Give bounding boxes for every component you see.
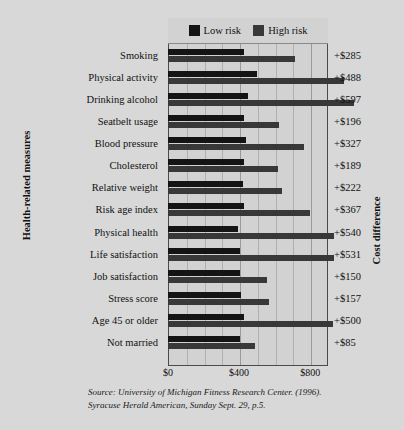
bar-high-risk: [168, 277, 267, 283]
category-label: Age 45 or older: [0, 310, 163, 332]
category-label: Smoking: [0, 44, 163, 66]
bar-low-risk: [168, 292, 241, 298]
category-label: Seatbelt usage: [0, 110, 163, 132]
category-label: Relative weight: [0, 177, 163, 199]
bar-low-risk: [168, 181, 243, 187]
category-label: Physical health: [0, 221, 163, 243]
cost-difference-value: +$189: [334, 155, 390, 177]
bar-high-risk: [168, 144, 304, 150]
category-label: Life satisfaction: [0, 243, 163, 265]
category-label: Blood pressure: [0, 133, 163, 155]
bar-group: [168, 310, 328, 332]
bar-high-risk: [168, 233, 334, 239]
cost-difference-value: +$85: [334, 332, 390, 354]
chart-figure: Low riskHigh risk SmokingPhysical activi…: [0, 0, 404, 430]
bar-high-risk: [168, 78, 344, 84]
bar-high-risk: [168, 166, 278, 172]
category-label: Stress score: [0, 287, 163, 309]
bar-group: [168, 88, 328, 110]
bar-group: [168, 265, 328, 287]
category-labels: SmokingPhysical activityDrinking alcohol…: [0, 44, 163, 354]
bar-low-risk: [168, 270, 240, 276]
x-tick-label: $800: [300, 367, 320, 378]
bar-group: [168, 44, 328, 66]
category-label: Not married: [0, 332, 163, 354]
cost-difference-value: +$540: [334, 221, 390, 243]
cost-difference-value: +$157: [334, 287, 390, 309]
bar-low-risk: [168, 226, 238, 232]
cost-difference-value: +$150: [334, 265, 390, 287]
bar-high-risk: [168, 122, 279, 128]
bar-group: [168, 199, 328, 221]
bar-high-risk: [168, 188, 282, 194]
bar-group: [168, 243, 328, 265]
category-label: Risk age index: [0, 199, 163, 221]
cost-difference-value: +$531: [334, 243, 390, 265]
category-label: Physical activity: [0, 66, 163, 88]
legend-swatch-icon: [189, 25, 200, 36]
x-tick-label: $0: [163, 367, 173, 378]
bar-group: [168, 155, 328, 177]
bar-high-risk: [168, 299, 269, 305]
bar-high-risk: [168, 343, 255, 349]
source-line-2: Syracuse Herald American, Sunday Sept. 2…: [88, 399, 388, 412]
bar-group: [168, 221, 328, 243]
bar-group: [168, 133, 328, 155]
category-label: Job satisfaction: [0, 265, 163, 287]
cost-difference-value: +$597: [334, 88, 390, 110]
legend-entry: Low risk: [189, 25, 242, 36]
bar-group: [168, 66, 328, 88]
cost-difference-value: +$488: [334, 66, 390, 88]
bar-high-risk: [168, 210, 310, 216]
bar-low-risk: [168, 248, 240, 254]
bar-rows: [168, 44, 328, 354]
bar-high-risk: [168, 56, 295, 62]
bar-high-risk: [168, 255, 334, 261]
bar-low-risk: [168, 93, 248, 99]
cost-difference-value: +$196: [334, 110, 390, 132]
bar-group: [168, 110, 328, 132]
bar-low-risk: [168, 159, 244, 165]
legend-label: Low risk: [204, 25, 242, 36]
legend-swatch-icon: [253, 25, 264, 36]
bar-low-risk: [168, 71, 257, 77]
cost-difference-value: +$327: [334, 133, 390, 155]
x-tick-label: $400: [229, 367, 249, 378]
bar-high-risk: [168, 100, 354, 106]
bar-low-risk: [168, 115, 244, 121]
bar-group: [168, 287, 328, 309]
source-note: Source: University of Michigan Fitness R…: [88, 386, 388, 412]
category-label: Cholesterol: [0, 155, 163, 177]
bar-group: [168, 177, 328, 199]
cost-difference-value: +$222: [334, 177, 390, 199]
chart-legend: Low riskHigh risk: [168, 18, 328, 44]
legend-label: High risk: [268, 25, 307, 36]
bar-low-risk: [168, 203, 244, 209]
bar-low-risk: [168, 314, 244, 320]
cost-difference-value: +$285: [334, 44, 390, 66]
source-line-1: Source: University of Michigan Fitness R…: [88, 386, 388, 399]
cost-difference-value: +$367: [334, 199, 390, 221]
bar-low-risk: [168, 137, 246, 143]
bar-low-risk: [168, 49, 244, 55]
bar-low-risk: [168, 336, 240, 342]
cost-difference-labels: +$285+$488+$597+$196+$327+$189+$222+$367…: [334, 44, 390, 354]
bar-group: [168, 332, 328, 354]
legend-entry: High risk: [253, 25, 307, 36]
cost-difference-value: +$500: [334, 310, 390, 332]
category-label: Drinking alcohol: [0, 88, 163, 110]
x-axis-ticks: $0$400$800: [168, 367, 328, 381]
bar-high-risk: [168, 321, 333, 327]
